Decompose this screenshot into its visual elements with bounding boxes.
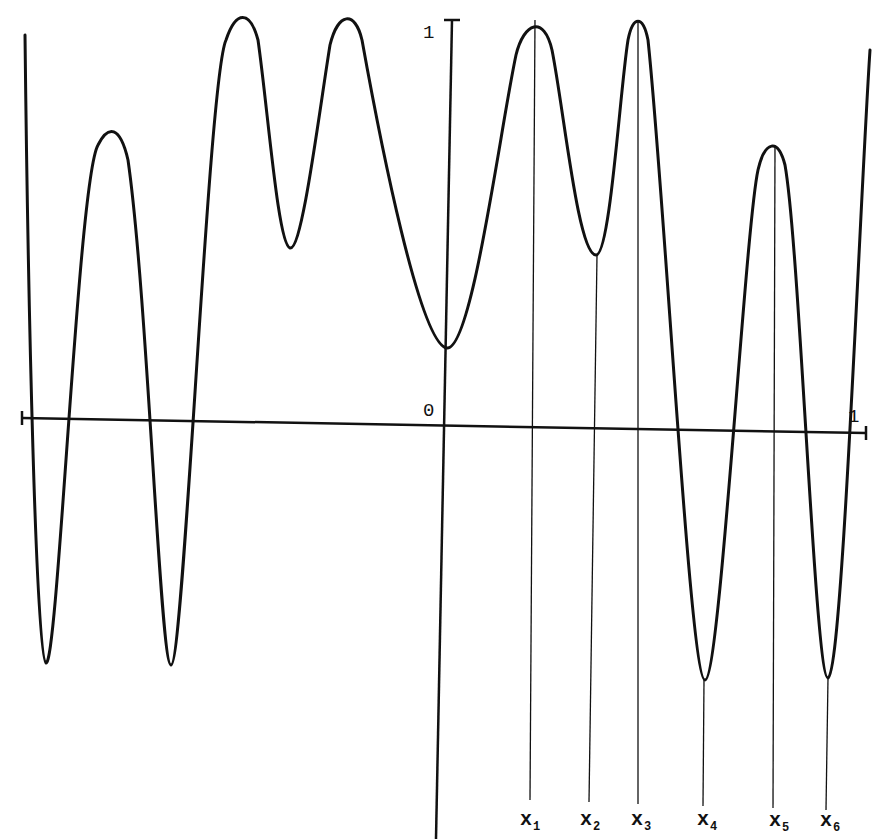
y-axis (436, 20, 460, 839)
point-label-x1: x1 (520, 810, 540, 830)
diagram-canvas (0, 0, 884, 839)
point-label-x2: x2 (580, 810, 600, 830)
point-label-x6: x6 (820, 811, 840, 831)
point-label-x5: x5 (769, 811, 789, 831)
origin-label: 0 (423, 402, 434, 421)
marker-line-x5 (773, 145, 775, 808)
marker-lines (530, 20, 828, 810)
oscillation-diagram: 1 0 1 x1 x2 x3 x4 x5 x6 (0, 0, 884, 839)
x-tick-label-one: 1 (848, 408, 859, 427)
marker-line-x2 (589, 255, 597, 802)
function-curve (25, 18, 870, 681)
y-tick-label-one: 1 (423, 24, 434, 43)
marker-line-x1 (530, 20, 535, 800)
point-label-x3: x3 (631, 810, 651, 830)
point-label-x4: x4 (697, 810, 717, 830)
marker-line-x6 (826, 678, 828, 810)
marker-line-x4 (703, 680, 704, 806)
